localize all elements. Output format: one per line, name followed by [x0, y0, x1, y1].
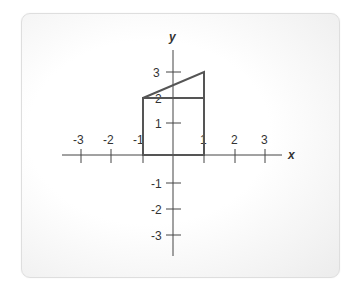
x-axis-label: x	[287, 148, 296, 162]
y-tick-label: -3	[151, 229, 162, 243]
x-tick-label: 3	[261, 133, 268, 147]
coordinate-plane: -3 -2 -1 1 2 3 3 2 1 -1 -2 -3 x y	[0, 0, 356, 288]
y-tick-label: -1	[151, 177, 162, 191]
y-tick-label: -2	[151, 203, 162, 217]
y-axis-label: y	[168, 30, 177, 44]
y-tick-label: 1	[155, 117, 162, 131]
x-tick-label: -3	[73, 133, 84, 147]
x-tick-label: 2	[231, 133, 238, 147]
y-tick-label: 3	[153, 66, 160, 80]
x-tick-label: -2	[103, 133, 114, 147]
